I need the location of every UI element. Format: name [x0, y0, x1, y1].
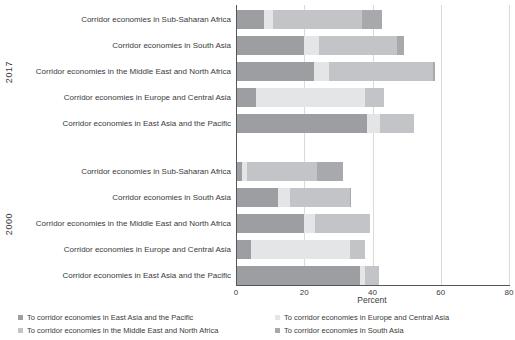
bar-row	[237, 62, 435, 81]
legend-item: To corridor economies in East Asia and t…	[18, 313, 193, 322]
bar-segment	[350, 240, 365, 259]
category-label: Corridor economies in Europe and Central…	[0, 240, 231, 259]
x-tick-label: 60	[429, 288, 453, 297]
category-label: Corridor economies in Europe and Central…	[0, 88, 231, 107]
category-label: Corridor economies in South Asia	[0, 36, 231, 55]
bar-segment	[278, 188, 290, 207]
bar-segment	[367, 114, 381, 133]
bar-segment	[350, 188, 352, 207]
legend-label: To corridor economies in the Middle East…	[27, 326, 218, 335]
category-label: Corridor economies in Sub-Saharan Africa	[0, 162, 231, 181]
bar-row	[237, 88, 384, 107]
category-label: Corridor economies in South Asia	[0, 188, 231, 207]
bar-segment	[380, 114, 414, 133]
bar-segment	[365, 88, 384, 107]
bar-segment	[329, 62, 433, 81]
bar-segment	[264, 10, 273, 29]
bar-segment	[362, 10, 382, 29]
legend-item: To corridor economies in South Asia	[275, 326, 404, 335]
bar-segment	[237, 114, 367, 133]
legend-label: To corridor economies in South Asia	[284, 326, 404, 335]
legend-item: To corridor economies in the Middle East…	[18, 326, 218, 335]
category-label: Corridor economies in Sub-Saharan Africa	[0, 10, 231, 29]
bar-segment	[237, 266, 360, 285]
bar-segment	[433, 62, 435, 81]
bar-segment	[237, 188, 278, 207]
bar-row	[237, 214, 370, 233]
bar-segment	[365, 266, 379, 285]
x-axis-line	[236, 285, 510, 286]
bar-segment	[273, 10, 362, 29]
bar-row	[237, 114, 414, 133]
bar-row	[237, 10, 382, 29]
bar-segment	[256, 88, 365, 107]
x-tick-label: 0	[224, 288, 248, 297]
bar-segment	[237, 10, 264, 29]
category-label: Corridor economies in East Asia and the …	[0, 114, 231, 133]
bar-segment	[237, 36, 304, 55]
bar-segment	[397, 36, 404, 55]
category-label: Corridor economies in the Middle East an…	[0, 62, 231, 81]
x-tick-label: 40	[361, 288, 385, 297]
legend-label: To corridor economies in Europe and Cent…	[284, 313, 449, 322]
bar-segment	[237, 88, 256, 107]
legend-swatch	[275, 315, 280, 320]
bar-segment	[237, 62, 314, 81]
category-label: Corridor economies in the Middle East an…	[0, 214, 231, 233]
legend-swatch	[18, 328, 23, 333]
bar-row	[237, 162, 343, 181]
bar-segment	[314, 62, 329, 81]
bar-segment	[247, 162, 317, 181]
gridline	[509, 5, 510, 285]
bar-row	[237, 188, 351, 207]
x-tick-label: 80	[497, 288, 515, 297]
legend-swatch	[275, 328, 280, 333]
legend-swatch	[18, 315, 23, 320]
x-tick-label: 20	[292, 288, 316, 297]
bar-segment	[304, 214, 316, 233]
bar-segment	[251, 240, 350, 259]
legend-item: To corridor economies in Europe and Cent…	[275, 313, 449, 322]
bar-segment	[237, 240, 251, 259]
bar-row	[237, 240, 365, 259]
bar-segment	[319, 36, 397, 55]
bar-row	[237, 266, 379, 285]
legend-label: To corridor economies in East Asia and t…	[27, 313, 193, 322]
bar-segment	[317, 162, 343, 181]
bar-segment	[304, 36, 319, 55]
gridline	[441, 5, 442, 285]
bar-segment	[315, 214, 370, 233]
bar-segment	[290, 188, 350, 207]
bar-row	[237, 36, 404, 55]
category-label: Corridor economies in East Asia and the …	[0, 266, 231, 285]
bar-segment	[237, 214, 304, 233]
